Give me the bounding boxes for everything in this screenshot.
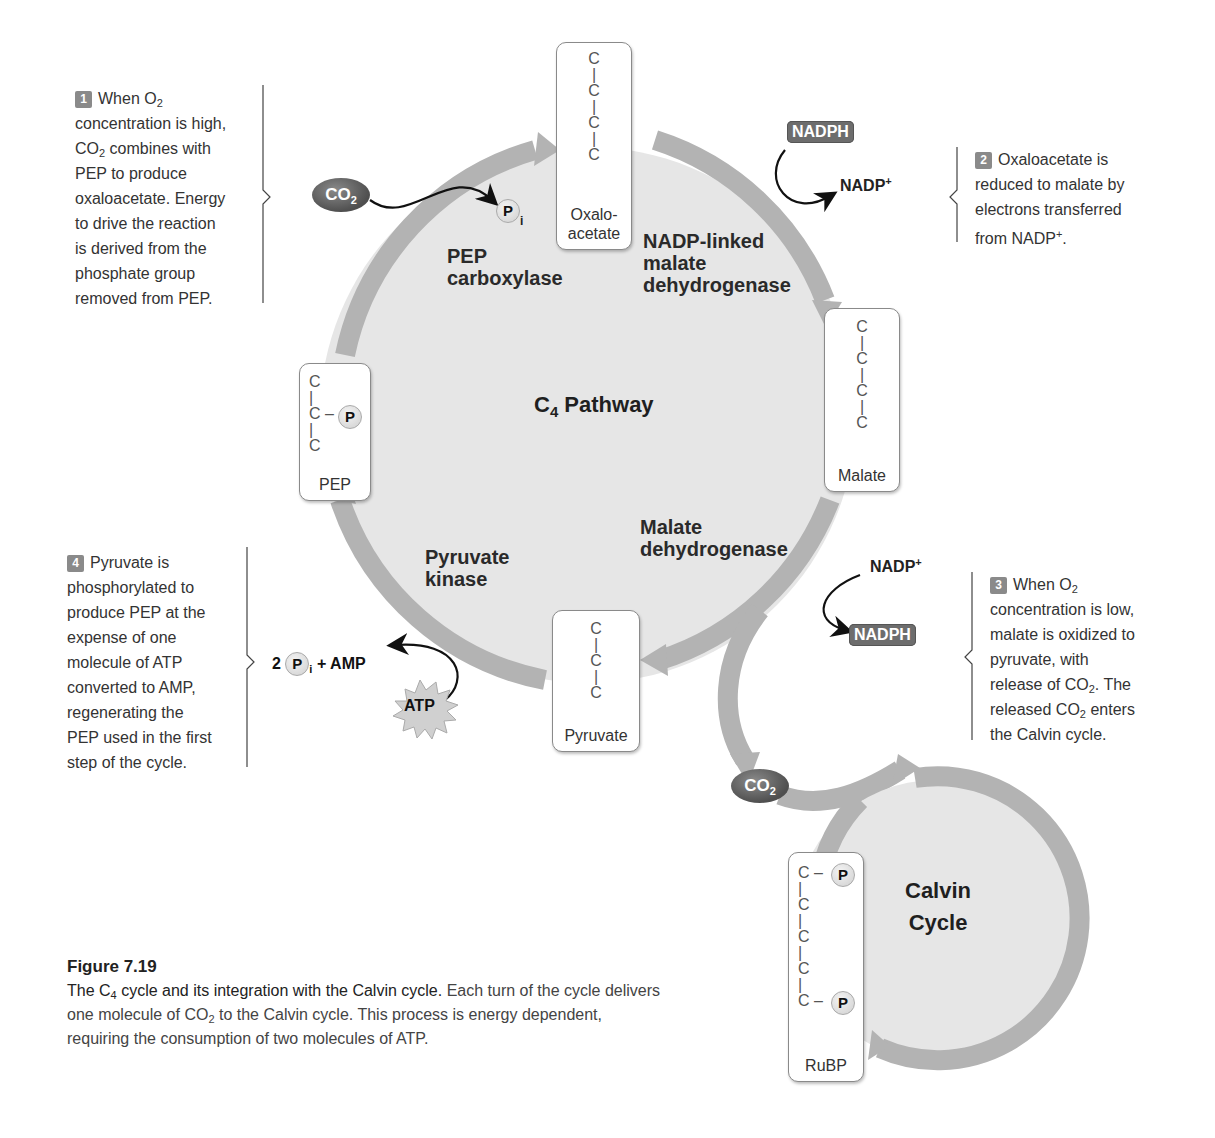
carbon-chain: C| C| C xyxy=(553,621,639,701)
note-text: produce PEP at the xyxy=(67,604,205,621)
note-text: expense of one xyxy=(67,629,176,646)
atp-label: ATP xyxy=(404,697,435,715)
note-text: CO xyxy=(75,140,99,157)
step-3-badge: 3 xyxy=(990,577,1007,594)
rubp-label: RuBP xyxy=(789,1056,863,1075)
pyruvate-kinase-label: Pyruvatekinase xyxy=(425,546,510,590)
note-text: the Calvin cycle. xyxy=(990,726,1107,743)
note-text: . xyxy=(1062,230,1066,247)
rubp-box: C – |C |C |C | C – P P RuBP xyxy=(788,852,864,1082)
pi-subscript: i xyxy=(520,214,523,228)
step-1-note: 1When O2 concentration is high, CO2 comb… xyxy=(75,86,265,311)
note-text: concentration is low, xyxy=(990,601,1134,618)
note-text: released CO xyxy=(990,701,1080,718)
pep-box: C| C – |C P PEP xyxy=(299,363,371,501)
note-text: PEP used in the first xyxy=(67,729,212,746)
phosphate-icon: P xyxy=(831,991,855,1015)
malate-dehydrogenase-label: Malatedehydrogenase xyxy=(640,516,788,560)
note-text: concentration is high, xyxy=(75,115,226,132)
step-1-badge: 1 xyxy=(75,91,92,108)
figure-caption: Figure 7.19 The C4 cycle and its integra… xyxy=(67,955,667,1051)
subscript: 2 xyxy=(1072,583,1078,595)
pyruvate-label: Pyruvate xyxy=(553,726,639,745)
oxaloacetate-label: Oxalo-acetate xyxy=(557,205,631,243)
malate-label: Malate xyxy=(825,466,899,485)
carbon-chain: C| C| C| C xyxy=(825,319,899,431)
note-text: from NADP xyxy=(975,230,1056,247)
note-text: malate is oxidized to xyxy=(990,626,1135,643)
note-text: Oxaloacetate is xyxy=(998,151,1108,168)
phosphate-icon: P xyxy=(338,405,362,429)
step-4-badge: 4 xyxy=(67,555,84,572)
note-text: phosphorylated to xyxy=(67,579,194,596)
oxaloacetate-box: C| C| C| C Oxalo-acetate xyxy=(556,42,632,250)
step-2-note: 2Oxaloacetate is reduced to malate by el… xyxy=(975,147,1175,251)
note-text: When O xyxy=(1013,576,1072,593)
caption-lead: The C xyxy=(67,982,111,999)
note-text: release of CO xyxy=(990,676,1089,693)
step-4-note: 4Pyruvate is phosphorylated to produce P… xyxy=(67,550,252,775)
c4-pathway-title: C4 Pathway xyxy=(534,392,654,420)
step-3-note: 3When O2 concentration is low, malate is… xyxy=(990,572,1190,747)
note-text: removed from PEP. xyxy=(75,290,213,307)
note-text: enters xyxy=(1090,701,1134,718)
products-2pi-amp: 2 Pi + AMP xyxy=(272,652,366,676)
carbon-chain: C – |C |C |C | C – xyxy=(789,865,863,1009)
nadp-top-label: NADP+ xyxy=(840,175,892,195)
note-text: combines with xyxy=(110,140,211,157)
nadph-bottom-badge: NADPH xyxy=(849,624,916,646)
co2-top-icon: CO2 xyxy=(312,178,370,212)
phosphate-icon: P xyxy=(831,863,855,887)
note-text: molecule of ATP xyxy=(67,654,182,671)
pyruvate-box: C| C| C Pyruvate xyxy=(552,610,640,752)
note-text: electrons transferred xyxy=(975,201,1122,218)
note-text: reduced to malate by xyxy=(975,176,1124,193)
note-text: PEP to produce xyxy=(75,165,187,182)
pep-label: PEP xyxy=(300,475,370,494)
subscript: 2 xyxy=(157,97,163,109)
figure-number: Figure 7.19 xyxy=(67,955,667,979)
note-text: to drive the reaction xyxy=(75,215,216,232)
step-2-badge: 2 xyxy=(975,152,992,169)
co2-bottom-icon: CO2 xyxy=(731,769,789,803)
carbon-chain: C| C| C| C xyxy=(557,51,631,163)
phosphate-icon: P xyxy=(285,652,309,676)
nadp-malate-dehydrogenase-label: NADP-linkedmalatedehydrogenase xyxy=(643,230,791,296)
note-text: pyruvate, with xyxy=(990,651,1089,668)
malate-box: C| C| C| C Malate xyxy=(824,308,900,492)
nadph-top-badge: NADPH xyxy=(787,121,854,143)
note-text: . The xyxy=(1095,676,1131,693)
note-text: converted to AMP, xyxy=(67,679,196,696)
note-text: When O xyxy=(98,90,157,107)
nadp-bottom-label: NADP+ xyxy=(870,556,922,576)
subscript: 2 xyxy=(99,147,105,159)
phosphate-icon: P xyxy=(496,199,520,223)
subscript: 2 xyxy=(1080,708,1086,720)
note-text: step of the cycle. xyxy=(67,754,187,771)
pep-carboxylase-label: PEPcarboxylase xyxy=(447,245,563,289)
note-text: regenerating the xyxy=(67,704,184,721)
caption-lead: cycle and its integration with the Calvi… xyxy=(117,982,442,999)
calvin-cycle-title: CalvinCycle xyxy=(905,875,971,939)
note-text: phosphate group xyxy=(75,265,195,282)
note-text: Pyruvate is xyxy=(90,554,169,571)
note-text: oxaloacetate. Energy xyxy=(75,190,225,207)
note-text: is derived from the xyxy=(75,240,207,257)
